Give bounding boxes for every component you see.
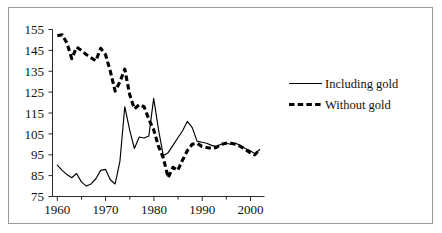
y-tick-label: 125 bbox=[25, 85, 45, 100]
chart-legend: Including gold Without gold bbox=[289, 77, 399, 112]
y-tick-label: 115 bbox=[25, 106, 44, 121]
chart-figure: 155 145 135 125 115 105 95 85 75 1960 19… bbox=[0, 0, 442, 233]
y-tick-label: 95 bbox=[31, 147, 44, 162]
y-tick-label: 75 bbox=[31, 189, 44, 204]
y-tick-label: 145 bbox=[25, 43, 45, 58]
y-tick-label: 85 bbox=[31, 168, 44, 183]
y-tick-label: 135 bbox=[25, 64, 45, 79]
y-tick-marks bbox=[49, 30, 53, 197]
x-tick-label: 1960 bbox=[44, 202, 70, 217]
x-tick-label: 1990 bbox=[189, 202, 215, 217]
legend-label-without-gold: Without gold bbox=[325, 98, 392, 112]
legend-label-including-gold: Including gold bbox=[325, 77, 399, 91]
x-axis-tick-labels: 1960 1970 1980 1990 2000 bbox=[44, 202, 263, 217]
x-tick-label: 1980 bbox=[141, 202, 167, 217]
y-tick-label: 105 bbox=[25, 127, 45, 142]
series-line-without-gold bbox=[57, 35, 259, 178]
y-tick-label: 155 bbox=[25, 22, 45, 37]
line-chart: 155 145 135 125 115 105 95 85 75 1960 19… bbox=[0, 0, 442, 233]
series-line-including-gold bbox=[57, 98, 259, 186]
x-tick-label: 2000 bbox=[238, 202, 264, 217]
y-axis-tick-labels: 155 145 135 125 115 105 95 85 75 bbox=[25, 22, 45, 204]
x-tick-label: 1970 bbox=[93, 202, 119, 217]
x-tick-marks bbox=[57, 197, 250, 202]
